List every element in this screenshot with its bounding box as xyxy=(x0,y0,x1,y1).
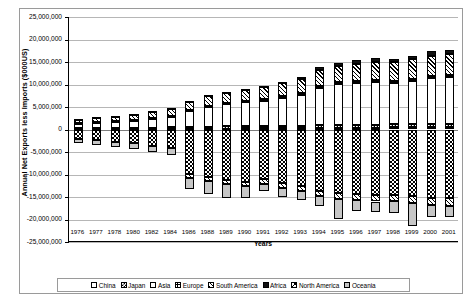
bar-segment-japan[interactable] xyxy=(297,126,306,129)
bar-segment-europe[interactable] xyxy=(427,76,436,78)
bar-segment-asia[interactable] xyxy=(204,107,213,127)
bar-group[interactable] xyxy=(92,17,101,241)
bar-segment-japan[interactable] xyxy=(334,125,343,128)
bar-group[interactable] xyxy=(278,17,287,241)
bar-segment-europe[interactable] xyxy=(352,81,361,83)
bar-segment-south-america[interactable] xyxy=(278,83,287,96)
bar-segment-south-america[interactable] xyxy=(389,62,398,80)
bar-segment-asia[interactable] xyxy=(445,77,454,124)
bar-segment-asia[interactable] xyxy=(408,81,417,124)
legend-item[interactable]: Japan xyxy=(121,282,146,289)
legend-item[interactable]: South America xyxy=(208,282,257,289)
bar-group[interactable] xyxy=(315,17,324,241)
bar-segment-europe[interactable] xyxy=(241,101,250,103)
bar-group[interactable] xyxy=(371,17,380,241)
bar-segment-oceania-negative[interactable] xyxy=(259,184,268,191)
bar-segment-north-america-negative[interactable] xyxy=(352,130,361,195)
bar-segment-japan[interactable] xyxy=(408,124,417,127)
bar-segment-africa[interactable] xyxy=(185,101,194,103)
bar-segment-oceania-negative[interactable] xyxy=(334,199,343,218)
legend-item[interactable]: Asia xyxy=(150,282,170,289)
bar-segment-europe[interactable] xyxy=(129,120,138,122)
bar-segment-japan[interactable] xyxy=(259,126,268,128)
bar-segment-north-america-negative[interactable] xyxy=(278,130,287,184)
bar-segment-north-america-negative[interactable] xyxy=(111,130,120,142)
bar-segment-south-america[interactable] xyxy=(297,79,306,93)
bar-segment-africa[interactable] xyxy=(297,77,306,79)
bar-segment-africa[interactable] xyxy=(259,86,268,88)
bar-segment-japan[interactable] xyxy=(222,126,231,128)
bar-segment-europe[interactable] xyxy=(445,75,454,77)
bar-segment-oceania-negative[interactable] xyxy=(352,200,361,210)
bar-segment-oceania-negative[interactable] xyxy=(408,203,417,226)
bar-segment-europe[interactable] xyxy=(278,96,287,98)
bar-segment-asia[interactable] xyxy=(241,102,250,126)
bar-segment-north-america-negative[interactable] xyxy=(315,130,324,191)
bar-segment-asia[interactable] xyxy=(334,84,343,125)
bar-segment-north-america-negative[interactable] xyxy=(185,130,194,174)
bar-segment-europe[interactable] xyxy=(204,106,213,108)
bar-segment-oceania-negative[interactable] xyxy=(204,181,213,194)
bar-segment-europe[interactable] xyxy=(74,123,83,125)
bar-segment-europe[interactable] xyxy=(389,81,398,83)
bar-segment-africa[interactable] xyxy=(278,82,287,84)
bar-group[interactable] xyxy=(185,17,194,241)
bar-segment-europe[interactable] xyxy=(148,118,157,120)
bar-segment-africa[interactable] xyxy=(92,117,101,119)
bar-group[interactable] xyxy=(389,17,398,241)
bar-segment-africa[interactable] xyxy=(334,63,343,66)
bar-group[interactable] xyxy=(297,17,306,241)
legend-item[interactable]: Oceania xyxy=(344,282,375,289)
bar-segment-japan[interactable] xyxy=(427,124,436,127)
bar-segment-asia[interactable] xyxy=(352,83,361,125)
bar-segment-africa[interactable] xyxy=(74,119,83,121)
bar-segment-africa[interactable] xyxy=(371,58,380,62)
bar-segment-africa[interactable] xyxy=(315,67,324,70)
bar-segment-japan[interactable] xyxy=(204,127,213,129)
bar-segment-europe[interactable] xyxy=(408,79,417,81)
bar-segment-south-america-negative[interactable] xyxy=(445,198,454,205)
bar-segment-north-america-negative[interactable] xyxy=(371,130,380,196)
bar-segment-africa[interactable] xyxy=(445,50,454,54)
bar-group[interactable] xyxy=(241,17,250,241)
bar-segment-oceania-negative[interactable] xyxy=(111,142,120,147)
bar-group[interactable] xyxy=(352,17,361,241)
bar-group[interactable] xyxy=(445,17,454,241)
bar-group[interactable] xyxy=(259,17,268,241)
bar-segment-europe[interactable] xyxy=(259,99,268,101)
bar-segment-asia[interactable] xyxy=(371,82,380,125)
legend-item[interactable]: Europe xyxy=(175,282,203,289)
bar-segment-oceania-negative[interactable] xyxy=(92,140,101,145)
bar-group[interactable] xyxy=(408,17,417,241)
bar-segment-oceania-negative[interactable] xyxy=(167,148,176,155)
bar-segment-asia[interactable] xyxy=(427,78,436,124)
bar-segment-north-america-negative[interactable] xyxy=(92,130,101,141)
bar-segment-north-america-negative[interactable] xyxy=(427,130,436,198)
legend-item[interactable]: Africa xyxy=(263,282,287,289)
bar-segment-south-america-negative[interactable] xyxy=(408,196,417,203)
bar-segment-japan[interactable] xyxy=(278,126,287,128)
bar-segment-south-america-negative[interactable] xyxy=(427,198,436,205)
bar-segment-north-america-negative[interactable] xyxy=(334,130,343,194)
bar-segment-africa[interactable] xyxy=(352,60,361,63)
bar-segment-asia[interactable] xyxy=(278,98,287,126)
bar-segment-oceania-negative[interactable] xyxy=(74,139,83,143)
bar-segment-oceania-negative[interactable] xyxy=(427,205,436,217)
bar-segment-japan[interactable] xyxy=(315,125,324,128)
bar-segment-north-america-negative[interactable] xyxy=(241,130,250,182)
bar-segment-oceania-negative[interactable] xyxy=(315,196,324,205)
bar-segment-europe[interactable] xyxy=(222,103,231,105)
bar-segment-south-america[interactable] xyxy=(259,87,268,99)
bar-segment-europe[interactable] xyxy=(111,121,120,123)
bar-segment-africa[interactable] xyxy=(241,89,250,91)
bar-segment-oceania-negative[interactable] xyxy=(241,186,250,198)
bar-segment-south-america[interactable] xyxy=(371,62,380,80)
bar-segment-south-america[interactable] xyxy=(204,96,213,105)
bar-segment-oceania-negative[interactable] xyxy=(222,184,231,198)
bar-segment-japan[interactable] xyxy=(445,124,454,127)
bar-segment-japan[interactable] xyxy=(371,125,380,128)
bar-segment-europe[interactable] xyxy=(315,86,324,88)
bar-segment-north-america-negative[interactable] xyxy=(222,130,231,180)
legend-item[interactable]: North America xyxy=(291,282,339,289)
bar-segment-north-america-negative[interactable] xyxy=(259,130,268,180)
